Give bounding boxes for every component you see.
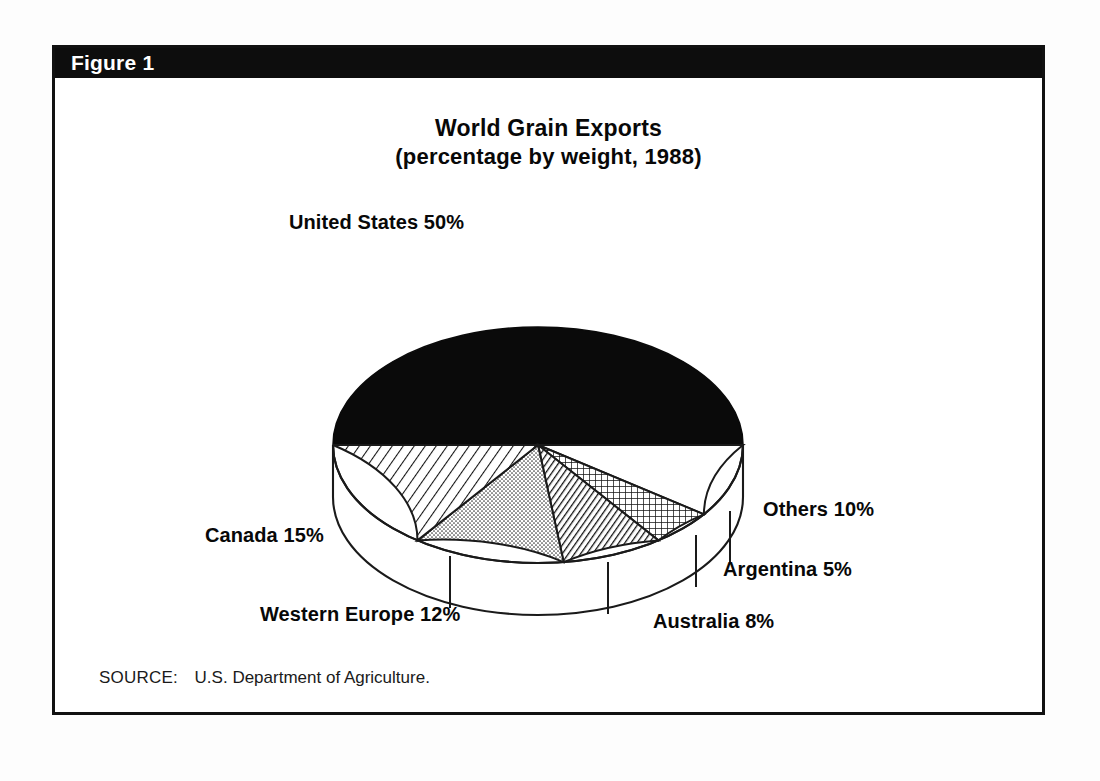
slice-label-australia: Australia 8% (653, 610, 774, 633)
pie-slice-western-europe (418, 445, 564, 562)
pie-side-wall (333, 445, 743, 615)
slice-label-canada: Canada 15% (205, 524, 324, 547)
figure-box: Figure 1 World Grain Exports (percentage… (52, 45, 1045, 715)
pie-slices (333, 327, 743, 562)
pie-slice-canada (333, 445, 538, 540)
source-prefix-label: SOURCE: (99, 668, 178, 687)
chart-title: World Grain Exports (55, 115, 1042, 142)
pie-slice-united-states (333, 327, 743, 445)
source-line: SOURCE: U.S. Department of Agriculture. (99, 668, 430, 688)
slice-label-western-europe: Western Europe 12% (260, 603, 460, 626)
slice-label-others: Others 10% (763, 498, 874, 521)
pie-slice-australia (538, 445, 659, 562)
pie-slice-others (538, 445, 743, 514)
pie-rim-lower (333, 445, 743, 563)
slice-label-argentina: Argentina 5% (723, 558, 852, 581)
pie-slice-argentina (538, 445, 704, 540)
slice-label-united-states: United States 50% (289, 211, 464, 234)
source-text: U.S. Department of Agriculture. (195, 668, 430, 687)
pie-wall-face (333, 445, 743, 615)
figure-header-bar: Figure 1 (55, 48, 1042, 78)
figure-number-label: Figure 1 (71, 51, 154, 75)
chart-subtitle: (percentage by weight, 1988) (55, 144, 1042, 170)
